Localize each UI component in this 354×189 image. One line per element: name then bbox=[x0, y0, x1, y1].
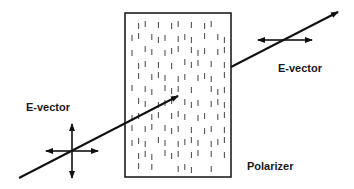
diagram-canvas bbox=[0, 0, 354, 189]
incident-evector-label: E-vector bbox=[26, 101, 70, 113]
incident-evector-cross-icon bbox=[46, 124, 98, 178]
polarizer-diagram: E-vector E-vector Polarizer bbox=[0, 0, 354, 189]
polarizer-label: Polarizer bbox=[247, 160, 293, 172]
transmitted-evector-label: E-vector bbox=[278, 62, 322, 74]
